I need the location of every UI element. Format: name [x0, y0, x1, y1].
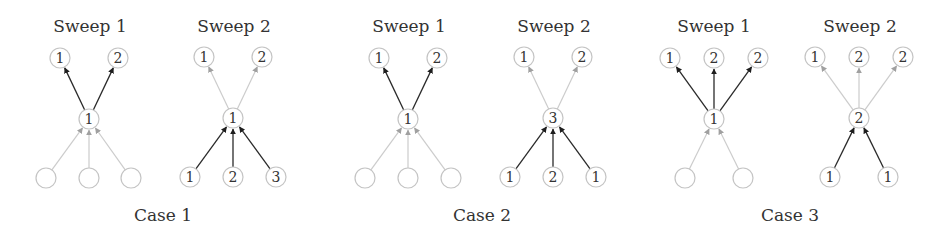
- sweep-title: Sweep 2: [197, 16, 270, 36]
- center-node: 2: [849, 108, 869, 128]
- node-value: 1: [666, 50, 675, 66]
- child-node: 1: [180, 167, 200, 187]
- child-node: 1: [500, 167, 520, 187]
- parent-node: 2: [572, 47, 592, 67]
- node-value: 1: [506, 169, 515, 185]
- parent-node: 1: [514, 47, 534, 67]
- node-value: 1: [404, 111, 413, 127]
- incoming-edge-arrow: [516, 127, 547, 169]
- outgoing-edge-arrow: [93, 68, 113, 110]
- node-circle: [121, 168, 141, 188]
- parent-node: 1: [194, 47, 214, 67]
- node-circle: [36, 168, 56, 188]
- nodes-layer: 1121121231123121211122212211: [36, 47, 913, 188]
- node-value: 2: [229, 169, 238, 185]
- child-node: 1: [586, 167, 606, 187]
- outgoing-edge-arrow: [412, 68, 432, 110]
- incoming-edge-arrow: [864, 128, 884, 168]
- labels-layer: Case 1Sweep 1Sweep 2Case 2Sweep 1Sweep 2…: [53, 16, 896, 225]
- outgoing-edge-arrow: [720, 67, 752, 111]
- center-node: 1: [223, 108, 243, 128]
- child-node: [36, 168, 56, 188]
- node-value: 1: [200, 49, 209, 65]
- node-value: 1: [375, 50, 384, 66]
- parent-node: 2: [108, 48, 128, 68]
- child-node: 1: [878, 167, 898, 187]
- case-label: Case 3: [761, 205, 819, 225]
- sweep-title: Sweep 1: [372, 16, 445, 36]
- node-value: 2: [710, 50, 719, 66]
- incoming-edge-arrow: [52, 128, 83, 170]
- message-passing-diagram: 1121121231123121211122212211 Case 1Sweep…: [0, 0, 944, 236]
- outgoing-edge-arrow: [209, 67, 229, 109]
- incoming-edge-arrow: [719, 129, 739, 169]
- outgoing-edge-arrow: [557, 67, 577, 109]
- incoming-edge-arrow: [689, 129, 709, 169]
- center-node: 1: [704, 109, 724, 129]
- child-node: [355, 168, 375, 188]
- outgoing-edge-arrow: [865, 66, 897, 110]
- node-value: 2: [754, 50, 763, 66]
- parent-node: 2: [252, 47, 272, 67]
- node-value: 1: [56, 50, 65, 66]
- outgoing-edge-arrow: [65, 68, 85, 110]
- outgoing-edge-arrow: [676, 67, 708, 111]
- outgoing-edge-arrow: [384, 68, 404, 110]
- node-circle: [398, 168, 418, 188]
- incoming-edge-arrow: [560, 127, 591, 169]
- node-value: 2: [855, 110, 864, 126]
- node-value: 2: [549, 169, 558, 185]
- center-node: 3: [543, 108, 563, 128]
- center-node: 1: [79, 109, 99, 129]
- node-value: 2: [578, 49, 587, 65]
- parent-node: 2: [849, 47, 869, 67]
- child-node: [675, 168, 695, 188]
- sweep-title: Sweep 2: [517, 16, 590, 36]
- center-node: 1: [398, 109, 418, 129]
- node-value: 1: [592, 169, 601, 185]
- child-node: [733, 168, 753, 188]
- node-value: 1: [520, 49, 529, 65]
- parent-node: 2: [427, 48, 447, 68]
- incoming-edge-arrow: [371, 128, 402, 170]
- child-node: 2: [223, 167, 243, 187]
- parent-node: 1: [805, 47, 825, 67]
- child-node: [79, 168, 99, 188]
- child-node: 3: [266, 167, 286, 187]
- parent-node: 2: [748, 48, 768, 68]
- node-circle: [79, 168, 99, 188]
- parent-node: 1: [369, 48, 389, 68]
- node-value: 1: [884, 169, 893, 185]
- node-value: 2: [114, 50, 123, 66]
- node-value: 1: [229, 110, 238, 126]
- node-value: 2: [899, 49, 908, 65]
- incoming-edge-arrow: [834, 128, 854, 168]
- parent-node: 1: [50, 48, 70, 68]
- node-value: 1: [710, 111, 719, 127]
- sweep-title: Sweep 1: [53, 16, 126, 36]
- parent-node: 1: [660, 48, 680, 68]
- node-circle: [441, 168, 461, 188]
- node-value: 2: [433, 50, 442, 66]
- incoming-edge-arrow: [415, 128, 446, 170]
- child-node: 1: [820, 167, 840, 187]
- incoming-edge-arrow: [95, 128, 125, 170]
- node-value: 3: [272, 169, 281, 185]
- node-value: 1: [85, 111, 94, 127]
- incoming-edge-arrow: [196, 127, 227, 169]
- node-value: 1: [186, 169, 195, 185]
- node-value: 3: [549, 110, 558, 126]
- case-label: Case 1: [134, 205, 192, 225]
- node-value: 1: [826, 169, 835, 185]
- node-value: 1: [811, 49, 820, 65]
- sweep-title: Sweep 2: [823, 16, 896, 36]
- node-circle: [733, 168, 753, 188]
- node-circle: [675, 168, 695, 188]
- node-value: 2: [855, 49, 864, 65]
- child-node: [441, 168, 461, 188]
- child-node: [398, 168, 418, 188]
- incoming-edge-arrow: [240, 127, 271, 169]
- child-node: [121, 168, 141, 188]
- node-value: 2: [258, 49, 267, 65]
- outgoing-edge-arrow: [821, 66, 853, 110]
